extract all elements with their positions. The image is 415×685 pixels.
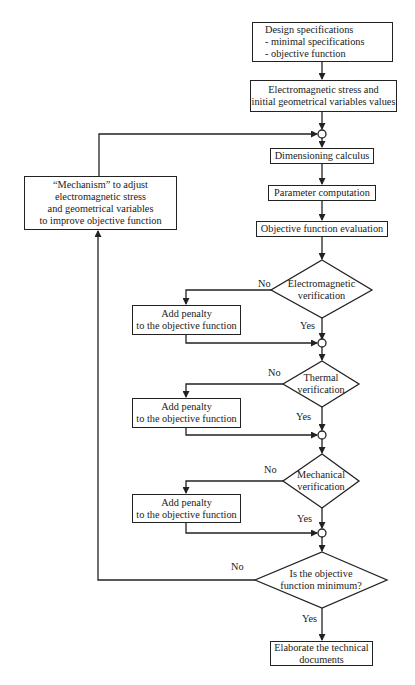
mechanism-line-3: and geometrical variables [48, 203, 154, 215]
mech-yes-label: Yes [297, 513, 312, 525]
thermal-line-2: verification [297, 384, 344, 396]
thermal-verification-decision: Thermal verification [283, 370, 359, 398]
add-penalty-box-2: Add penalty to the objective function [132, 398, 241, 428]
objective-eval-label: Objective function evaluation [261, 223, 383, 235]
penalty-2-line-2: to the objective function [136, 413, 236, 425]
penalty-3-line-1: Add penalty [161, 497, 212, 509]
em-stress-line-2: initial geometrical variables values [252, 96, 396, 108]
objective-min-line-2: function minimum? [280, 580, 362, 592]
em-stress-initial-values-box: Electromagnetic stress and initial geome… [250, 80, 397, 112]
technical-documents-box: Elaborate the technical documents [270, 641, 373, 666]
design-specifications-box: Design specifications - minimal specific… [252, 22, 393, 62]
dimensioning-label: Dimensioning calculus [275, 150, 370, 162]
technical-docs-line-2: documents [299, 654, 344, 666]
em-verification-line-2: verification [298, 290, 345, 302]
mechanical-verification-decision: Mechanical verification [283, 467, 359, 495]
thermal-line-1: Thermal [304, 372, 339, 384]
em-verification-decision: Electromagnetic verification [271, 276, 372, 304]
em-no-label: No [258, 278, 271, 290]
parameter-computation-box: Parameter computation [268, 185, 376, 201]
em-yes-label: Yes [300, 320, 315, 332]
design-spec-item-2: - objective function [265, 48, 346, 60]
objective-minimum-decision: Is the objective function minimum? [255, 566, 387, 594]
min-yes-label: Yes [302, 613, 317, 625]
mechanism-line-2: electromagnetic stress [55, 191, 146, 203]
thermal-no-label: No [268, 367, 281, 379]
thermal-yes-label: Yes [296, 411, 311, 423]
add-penalty-box-1: Add penalty to the objective function [132, 305, 241, 335]
technical-docs-line-1: Elaborate the technical [274, 642, 368, 654]
objective-min-line-1: Is the objective [290, 568, 353, 580]
design-spec-item-1: - minimal specifications [265, 36, 365, 48]
design-spec-title: Design specifications [265, 24, 353, 36]
mechanism-box: “Mechanism” to adjust electromagnetic st… [24, 176, 177, 230]
penalty-1-line-1: Add penalty [161, 308, 212, 320]
em-verification-line-1: Electromagnetic [288, 278, 355, 290]
mechanical-line-2: verification [297, 481, 344, 493]
mechanism-line-4: to improve objective function [39, 215, 161, 227]
objective-function-evaluation-box: Objective function evaluation [256, 221, 388, 237]
penalty-2-line-1: Add penalty [161, 401, 212, 413]
min-no-label: No [231, 561, 244, 573]
penalty-3-line-2: to the objective function [136, 509, 236, 521]
parameter-computation-label: Parameter computation [274, 187, 370, 199]
mech-no-label: No [264, 464, 277, 476]
mechanical-line-1: Mechanical [297, 469, 345, 481]
em-stress-line-1: Electromagnetic stress and [268, 84, 378, 96]
dimensioning-calculus-box: Dimensioning calculus [270, 148, 374, 164]
penalty-1-line-2: to the objective function [136, 320, 236, 332]
mechanism-line-1: “Mechanism” to adjust [53, 179, 148, 191]
add-penalty-box-3: Add penalty to the objective function [132, 494, 241, 523]
